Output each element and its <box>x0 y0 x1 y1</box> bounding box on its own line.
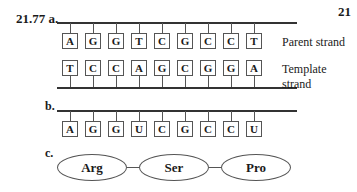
mrna-base-box: C <box>223 121 239 137</box>
mrna-base-box: G <box>85 121 101 137</box>
mrna-connector-line <box>208 111 209 121</box>
mrna-base-box: U <box>246 121 262 137</box>
parent-connector-line <box>93 23 94 33</box>
peptide-bond-line <box>209 167 221 168</box>
template-base-box: A <box>246 60 262 76</box>
mrna-connector-line <box>254 111 255 121</box>
parent-base-box: C <box>200 33 216 49</box>
template-connector-line <box>208 76 209 87</box>
parent-connector-line <box>162 23 163 33</box>
mrna-base-box: U <box>131 121 147 137</box>
template-base-box: G <box>223 60 239 76</box>
mrna-connector-line <box>93 111 94 121</box>
mrna-base-box: C <box>200 121 216 137</box>
amino-acid-oval: Ser <box>139 154 209 181</box>
parent-base-box: T <box>246 33 262 49</box>
mrna-base-box: C <box>154 121 170 137</box>
template-connector-line <box>116 76 117 87</box>
parent-base-box: G <box>108 33 124 49</box>
parent-base-box: T <box>131 33 147 49</box>
mrna-connector-line <box>162 111 163 121</box>
template-connector-line <box>185 76 186 87</box>
parent-connector-line <box>116 23 117 33</box>
template-connector-line <box>139 76 140 87</box>
template-connector-line <box>254 76 255 87</box>
mrna-base-box: G <box>177 121 193 137</box>
parent-connector-line <box>231 23 232 33</box>
template-base-box: C <box>85 60 101 76</box>
mrna-connector-line <box>116 111 117 121</box>
template-strand-label: Template strand <box>282 62 357 92</box>
parent-connector-line <box>208 23 209 33</box>
template-base-box: C <box>108 60 124 76</box>
mrna-connector-line <box>231 111 232 121</box>
mrna-connector-line <box>185 111 186 121</box>
template-backbone-line <box>57 87 297 89</box>
mrna-base-box: A <box>62 121 78 137</box>
template-connector-line <box>162 76 163 87</box>
part-c-label: c. <box>45 146 53 161</box>
amino-acid-oval: Arg <box>57 154 127 181</box>
mrna-connector-line <box>139 111 140 121</box>
amino-acid-oval: Pro <box>221 154 291 181</box>
template-base-box: A <box>131 60 147 76</box>
problem-number: 21.77 a. <box>16 11 58 27</box>
peptide-bond-line <box>127 167 139 168</box>
part-b-label: b. <box>45 99 55 114</box>
parent-base-box: A <box>62 33 78 49</box>
template-base-box: G <box>200 60 216 76</box>
parent-base-box: G <box>85 33 101 49</box>
parent-base-box: C <box>154 33 170 49</box>
template-base-box: G <box>154 60 170 76</box>
parent-connector-line <box>254 23 255 33</box>
parent-base-box: G <box>177 33 193 49</box>
mrna-base-box: G <box>108 121 124 137</box>
mrna-connector-line <box>70 111 71 121</box>
template-base-box: T <box>62 60 78 76</box>
page-number: 21 <box>338 4 351 20</box>
parent-strand-label: Parent strand <box>282 35 345 50</box>
template-connector-line <box>70 76 71 87</box>
parent-base-box: C <box>223 33 239 49</box>
template-connector-line <box>93 76 94 87</box>
template-base-box: C <box>177 60 193 76</box>
parent-connector-line <box>139 23 140 33</box>
parent-connector-line <box>70 23 71 33</box>
parent-connector-line <box>185 23 186 33</box>
template-connector-line <box>231 76 232 87</box>
